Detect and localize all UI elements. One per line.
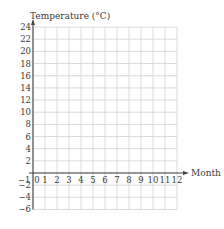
x-tick-label: 9 (138, 175, 143, 185)
y-tick-labels: 24222018161412108642−2−4−6 (18, 22, 31, 214)
y-tick-label: 14 (20, 83, 31, 93)
x-tick-label: 8 (126, 175, 131, 185)
y-tick-label: −6 (18, 204, 31, 214)
x-axis-label: Month (191, 168, 221, 178)
x-tick-label: 2 (54, 175, 59, 185)
x-tick-label: 7 (114, 175, 119, 185)
x-axis-arrow-icon (183, 171, 189, 175)
y-tick-label: 10 (20, 107, 31, 117)
x-tick-label: −1 (18, 175, 31, 185)
x-tick-label: 12 (172, 175, 183, 185)
y-tick-label: 16 (20, 71, 31, 81)
y-tick-label: 6 (26, 132, 31, 142)
y-tick-label: 12 (20, 95, 31, 105)
x-tick-label: 1 (42, 175, 47, 185)
y-axis-label: Temperature (°C) (30, 11, 110, 21)
chart: 24222018161412108642−2−4−6 −101234567891… (0, 0, 224, 229)
x-tick-label: 10 (148, 175, 159, 185)
y-tick-label: 2 (26, 156, 31, 166)
x-tick-label: 11 (160, 175, 171, 185)
y-tick-label: −4 (18, 192, 31, 202)
y-tick-label: 18 (20, 59, 31, 69)
y-tick-label: 20 (20, 46, 31, 56)
x-tick-label: 3 (66, 175, 71, 185)
x-tick-label: 6 (102, 175, 107, 185)
y-tick-label: 24 (20, 22, 31, 32)
y-tick-label: 22 (20, 34, 31, 44)
x-tick-label: 0 (34, 175, 39, 185)
x-tick-label: 4 (78, 175, 83, 185)
y-tick-label: 8 (26, 119, 31, 129)
x-tick-labels: −10123456789101112 (18, 175, 182, 185)
y-tick-label: 4 (26, 144, 31, 154)
x-tick-label: 5 (90, 175, 95, 185)
